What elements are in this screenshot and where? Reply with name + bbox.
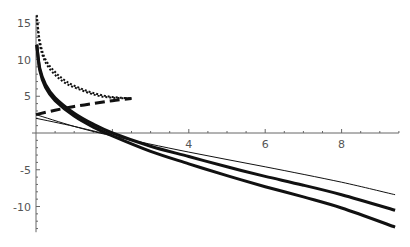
series-dotted-lower (37, 19, 132, 98)
y-tick-label: 5 (24, 90, 31, 103)
series-thick-solid-lower (37, 45, 395, 227)
x-tick-label: 8 (338, 138, 345, 151)
line-chart: 46815105-5-10 (0, 0, 410, 247)
y-tick-label: 15 (17, 17, 31, 30)
y-tick-label: 10 (17, 54, 31, 67)
y-tick-label: -5 (20, 164, 31, 177)
x-tick-label: 4 (185, 138, 192, 151)
series-dotted-upper (37, 15, 132, 98)
plot-area (36, 15, 395, 227)
series-thick-solid-upper (37, 45, 395, 210)
y-tick-label: -10 (13, 201, 31, 214)
x-tick-label: 6 (262, 138, 269, 151)
series-thick-dashed (36, 99, 132, 115)
